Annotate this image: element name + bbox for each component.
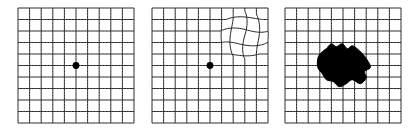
amsler-grid-normal	[18, 8, 134, 123]
scotoma-blob	[317, 44, 370, 87]
fixation-dot	[207, 62, 214, 69]
amsler-grid-scotoma	[285, 8, 401, 123]
amsler-grid-metamorphopsia	[152, 8, 268, 123]
fixation-dot	[73, 62, 80, 69]
amsler-grid-figure	[0, 0, 419, 133]
